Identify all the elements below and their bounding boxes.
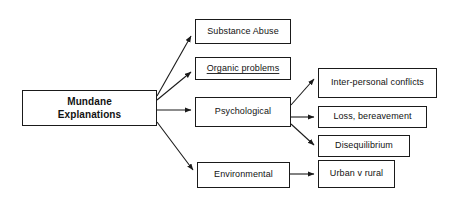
edge-root-to-organic-problems bbox=[157, 72, 191, 100]
node-urban-v-rural[interactable]: Urban v rural bbox=[318, 160, 395, 188]
node-label-environmental: Environmental bbox=[211, 169, 276, 180]
node-organic-problems[interactable]: Organic problems bbox=[195, 57, 291, 80]
node-psychological[interactable]: Psychological bbox=[195, 97, 291, 127]
flowchart-canvas: Mundane Explanations Substance Abuse Org… bbox=[0, 0, 460, 211]
node-label-loss-bereavement: Loss, bereavement bbox=[330, 111, 414, 122]
node-loss-bereavement[interactable]: Loss, bereavement bbox=[318, 106, 427, 128]
node-substance-abuse[interactable]: Substance Abuse bbox=[195, 19, 291, 44]
node-mundane-explanations[interactable]: Mundane Explanations bbox=[22, 90, 157, 126]
edge-psychological-to-inter-personal-conflicts bbox=[291, 79, 314, 105]
node-label-mundane-explanations: Mundane Explanations bbox=[55, 95, 124, 122]
node-label-substance-abuse: Substance Abuse bbox=[204, 26, 282, 37]
node-label-inter-personal-conflicts: Inter-personal conflicts bbox=[328, 77, 427, 88]
node-label-organic-problems: Organic problems bbox=[204, 63, 283, 74]
edge-root-to-substance-abuse bbox=[157, 36, 191, 96]
node-inter-personal-conflicts[interactable]: Inter-personal conflicts bbox=[318, 68, 437, 98]
node-label-psychological: Psychological bbox=[212, 106, 274, 117]
edge-root-to-environmental bbox=[157, 122, 193, 170]
edge-psychological-to-disequilibrium bbox=[291, 124, 314, 145]
node-label-disequilibrium: Disequilibrium bbox=[332, 140, 396, 151]
node-disequilibrium[interactable]: Disequilibrium bbox=[318, 135, 410, 157]
node-environmental[interactable]: Environmental bbox=[197, 162, 290, 188]
node-label-urban-v-rural: Urban v rural bbox=[327, 168, 386, 179]
